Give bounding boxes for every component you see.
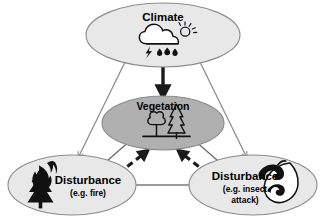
disturbance-fire-label: Disturbance	[55, 174, 121, 186]
node-disturbance-insect[interactable]: Disturbance (e.g. insect attack)	[189, 155, 317, 215]
node-disturbance-fire[interactable]: Disturbance (e.g. fire)	[8, 155, 136, 215]
disturbance-fire-sublabel: (e.g. fire)	[70, 188, 106, 198]
disturbance-insect-label: Disturbance	[212, 170, 278, 182]
node-vegetation[interactable]: Vegetation	[102, 96, 224, 150]
disturbance-insect-sublabel-line2: attack)	[231, 195, 259, 205]
node-climate[interactable]: Climate	[86, 3, 240, 67]
vegetation-label: Vegetation	[136, 100, 189, 112]
diagram-svg: Climate	[0, 0, 325, 220]
disturbance-insect-sublabel-line1: (e.g. insect	[223, 184, 268, 194]
diagram-canvas: Climate	[0, 0, 325, 220]
climate-label: Climate	[142, 11, 184, 23]
